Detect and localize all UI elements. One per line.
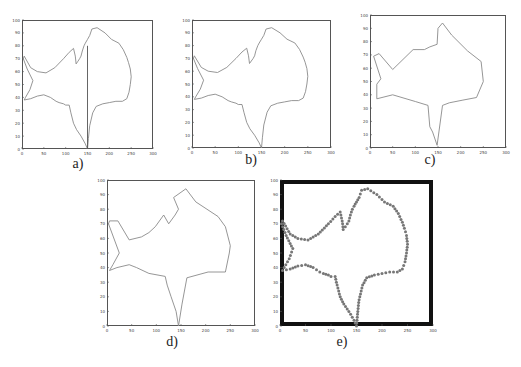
data-point: [289, 233, 292, 236]
data-point: [315, 268, 318, 271]
plot-area: 0501001502002503000102030405060708090100: [107, 180, 255, 326]
data-point: [334, 215, 337, 218]
y-tick-label: 80: [273, 207, 279, 212]
data-point: [312, 235, 315, 238]
data-point: [400, 218, 403, 221]
x-tick-label: 0: [369, 150, 372, 155]
x-tick-label: 100: [153, 328, 161, 333]
data-point: [360, 290, 363, 293]
x-tick-label: 250: [127, 151, 135, 156]
data-point: [334, 278, 337, 281]
x-tick-label: 200: [202, 328, 210, 333]
data-point: [404, 260, 407, 263]
data-point: [381, 272, 384, 275]
y-tick-label: 10: [185, 133, 191, 138]
data-point: [401, 268, 404, 271]
x-tick-label: 100: [327, 328, 335, 333]
data-point: [344, 305, 347, 308]
y-tick-label: 80: [100, 207, 106, 212]
y-tick-label: 90: [15, 30, 21, 35]
y-tick-label: 30: [273, 280, 279, 285]
y-tick-label: 40: [363, 92, 369, 97]
y-tick-label: 60: [15, 69, 21, 74]
data-point: [318, 271, 321, 274]
data-point: [375, 193, 378, 196]
data-point: [405, 234, 408, 237]
data-point: [405, 252, 408, 255]
data-point: [337, 290, 340, 293]
data-point: [370, 274, 373, 277]
y-tick-label: 30: [363, 106, 369, 111]
data-point: [341, 222, 344, 225]
data-point: [281, 219, 284, 222]
panel-a: 0501001502002503000102030405060708090100: [22, 20, 153, 149]
data-point: [404, 230, 407, 233]
data-point: [401, 221, 404, 224]
y-tick-label: 30: [100, 280, 106, 285]
x-tick-label: 300: [502, 150, 510, 155]
data-point: [356, 316, 359, 319]
data-point: [329, 220, 332, 223]
data-point: [405, 254, 408, 257]
x-tick-label: 250: [304, 150, 312, 155]
data-point: [402, 264, 405, 267]
y-tick-label: 60: [273, 236, 279, 241]
x-tick-label: 200: [281, 150, 289, 155]
data-point: [351, 316, 354, 319]
y-tick-label: 60: [100, 236, 106, 241]
data-point: [349, 313, 352, 316]
data-point: [357, 307, 360, 310]
data-point: [346, 222, 349, 225]
data-point: [353, 319, 356, 322]
x-tick-label: 150: [177, 328, 185, 333]
data-point: [282, 228, 285, 231]
data-point: [336, 213, 339, 216]
data-point: [283, 222, 286, 225]
data-point: [314, 234, 317, 237]
data-point: [353, 205, 356, 208]
data-point: [365, 276, 368, 279]
data-point: [284, 225, 287, 228]
data-point: [404, 257, 407, 260]
y-tick-label: 20: [363, 119, 369, 124]
y-tick-label: 100: [182, 18, 190, 23]
data-point: [309, 237, 312, 240]
y-tick-label: 10: [15, 134, 21, 139]
data-point: [388, 271, 391, 274]
y-tick-label: 90: [363, 26, 369, 31]
data-point: [366, 187, 369, 190]
x-tick-label: 250: [227, 328, 235, 333]
data-point: [304, 263, 307, 266]
data-point: [358, 298, 361, 301]
y-tick-label: 90: [185, 30, 191, 35]
x-tick-label: 250: [404, 328, 412, 333]
data-point: [287, 230, 290, 233]
data-point: [360, 287, 363, 290]
y-tick-label: 10: [363, 132, 369, 137]
data-point: [405, 249, 408, 252]
x-tick-label: 50: [390, 150, 396, 155]
y-tick-label: 40: [15, 95, 21, 100]
data-point: [284, 231, 287, 234]
y-tick-label: 20: [15, 121, 21, 126]
data-point: [335, 281, 338, 284]
data-point: [289, 254, 292, 257]
data-point: [354, 322, 357, 325]
data-point: [331, 217, 334, 220]
data-point: [359, 192, 362, 195]
data-point: [383, 200, 386, 203]
data-point: [386, 202, 389, 205]
x-tick-label: 300: [429, 328, 437, 333]
data-point: [289, 268, 292, 271]
x-tick-label: 50: [303, 328, 309, 333]
y-tick-label: 100: [270, 178, 278, 183]
data-point: [341, 219, 344, 222]
y-tick-label: 10: [100, 309, 106, 314]
data-point: [285, 268, 288, 271]
data-point: [351, 208, 354, 211]
data-point: [350, 211, 353, 214]
data-point: [405, 237, 408, 240]
data-point: [296, 265, 299, 268]
x-tick-label: 200: [378, 328, 386, 333]
data-point: [336, 287, 339, 290]
